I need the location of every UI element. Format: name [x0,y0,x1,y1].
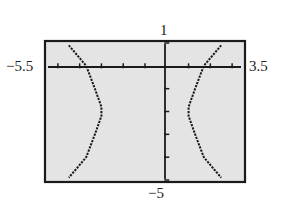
plot-frame [45,41,245,182]
graph-window [0,0,285,213]
ymin-label: −5 [148,186,164,201]
xmin-label: −5.5 [6,59,33,74]
ymax-label: 1 [160,23,168,38]
xmax-label: 3.5 [249,59,268,74]
